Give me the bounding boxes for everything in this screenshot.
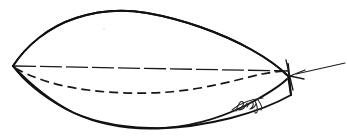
sketch-canvas: Hand-drawn boat hull profile sketch bbox=[0, 0, 347, 139]
paper-speck bbox=[103, 28, 105, 30]
hull-sketch-svg bbox=[0, 0, 347, 139]
